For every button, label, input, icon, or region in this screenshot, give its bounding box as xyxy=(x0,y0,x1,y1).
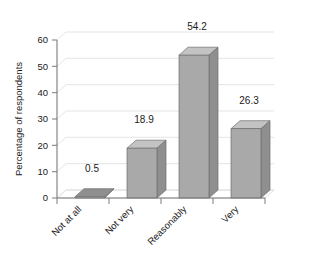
bar-side-face xyxy=(261,121,270,198)
value-label-not-very: 18.9 xyxy=(134,114,154,125)
y-tick-label-60: 60 xyxy=(37,34,48,45)
bar-reasonably[interactable] xyxy=(179,47,218,198)
bar-front-face xyxy=(179,55,209,198)
value-label-not-at-all: 0.5 xyxy=(85,163,99,174)
bar-not-very[interactable] xyxy=(127,140,166,198)
y-tick-label-20: 20 xyxy=(37,140,48,151)
bar-side-face xyxy=(157,140,166,198)
value-label-reasonably: 54.2 xyxy=(187,21,207,32)
bar-side-face xyxy=(209,47,218,198)
bar-front-face xyxy=(127,148,157,198)
bar-very[interactable] xyxy=(231,121,270,198)
y-axis-title: Percentage of respondents xyxy=(13,62,24,176)
value-label-very: 26.3 xyxy=(239,95,259,106)
y-tick-label-10: 10 xyxy=(37,166,48,177)
bar-front-face xyxy=(231,129,261,198)
y-tick-label-50: 50 xyxy=(37,61,48,72)
chart-canvas: 0 10 20 30 40 50 60 Percentage of respon… xyxy=(0,0,318,263)
y-tick-label-0: 0 xyxy=(43,192,48,203)
y-tick-label-40: 40 xyxy=(37,87,48,98)
y-tick-label-30: 30 xyxy=(37,113,48,124)
bar-chart: 0 10 20 30 40 50 60 Percentage of respon… xyxy=(0,0,318,263)
